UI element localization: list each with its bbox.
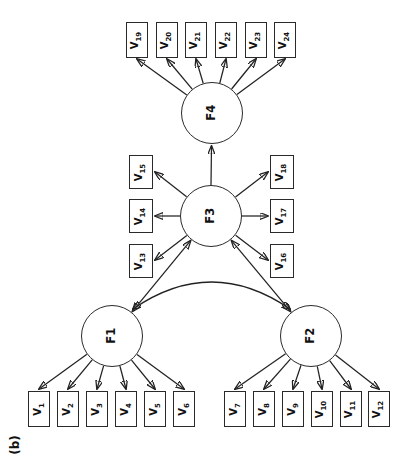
indicator-box-v20: V20 [156, 22, 178, 58]
loading-arrow-f2-v7 [235, 354, 286, 389]
indicator-label-v19: V19 [131, 31, 144, 49]
indicator-label-v4: V4 [120, 403, 133, 416]
indicator-label-v8: V8 [258, 403, 271, 416]
loading-arrow-f4-v19 [137, 59, 187, 95]
loading-arrow-f1-v1 [39, 354, 87, 389]
indicator-label-v16: V16 [276, 252, 289, 270]
indicator-box-v4: V4 [115, 391, 137, 427]
indicator-box-v21: V21 [185, 22, 207, 58]
indicator-box-v22: V22 [215, 22, 237, 58]
indicator-label-v9: V9 [287, 403, 300, 416]
indicator-label-v22: V22 [220, 31, 233, 49]
indicator-box-v2: V2 [57, 391, 79, 427]
loading-arrow-f3-v18 [236, 172, 269, 197]
loading-arrow-f3-v16 [236, 235, 268, 260]
indicator-label-v1: V1 [33, 403, 46, 416]
indicator-box-v8: V8 [253, 391, 275, 427]
indicator-label-v3: V3 [91, 403, 104, 416]
loading-arrow-f2-v12 [336, 355, 380, 389]
indicator-label-v21: V21 [190, 31, 203, 49]
indicator-label-v15: V15 [135, 163, 148, 181]
indicator-box-v15: V15 [129, 155, 153, 189]
indicator-label-v10: V10 [316, 400, 329, 418]
loading-arrow-f3-v15 [155, 172, 187, 197]
indicator-box-v12: V12 [368, 391, 390, 427]
sem-diagram-canvas: V19 V20 V21 V22 V23 V24 V15 V14 V13 V18 … [0, 0, 410, 458]
factor-label-f2: F2 [305, 328, 317, 344]
factor-label-f3: F3 [205, 208, 217, 224]
indicator-box-v17: V17 [270, 199, 294, 233]
loading-arrow-f4-v21 [196, 59, 203, 83]
indicator-label-v18: V18 [276, 163, 289, 181]
loading-arrow-f1-v2 [68, 360, 92, 389]
loading-arrow-f2-v9 [293, 365, 301, 389]
loading-arrow-f4-v20 [167, 59, 192, 89]
indicator-box-v18: V18 [270, 155, 294, 189]
indicator-label-v6: V6 [178, 403, 191, 416]
indicator-label-v11: V11 [345, 400, 358, 418]
factor-circle-f2: F2 [280, 305, 342, 367]
indicator-label-v24: V24 [279, 31, 292, 49]
factor-circle-f1: F1 [81, 305, 143, 367]
loading-arrow-f1-v3 [97, 366, 104, 389]
indicator-box-v6: V6 [173, 391, 195, 427]
indicator-box-v23: V23 [245, 22, 267, 58]
loading-arrow-f2-v10 [317, 366, 322, 389]
indicator-box-v5: V5 [144, 391, 166, 427]
indicator-label-v20: V20 [161, 31, 174, 49]
regression-arrow-f3-f4 [211, 146, 212, 185]
indicator-box-v3: V3 [86, 391, 108, 427]
indicator-label-v5: V5 [149, 403, 162, 416]
indicator-box-v24: V24 [274, 22, 296, 58]
covariance-arrow-f1-f2 [133, 282, 290, 309]
indicator-box-v9: V9 [282, 391, 304, 427]
indicator-box-v19: V19 [126, 22, 148, 58]
loading-arrow-f4-v22 [220, 59, 226, 83]
factor-circle-f3: F3 [180, 185, 242, 247]
indicator-label-v13: V13 [135, 252, 148, 270]
loading-arrow-f1-v4 [120, 366, 126, 389]
indicator-label-v23: V23 [250, 31, 263, 49]
loading-arrow-f3-v13 [155, 235, 187, 260]
loading-arrow-f2-v11 [330, 361, 351, 389]
indicator-label-v14: V14 [135, 207, 148, 225]
loading-arrow-f4-v24 [237, 59, 285, 95]
indicator-box-v1: V1 [28, 391, 50, 427]
indicator-label-v12: V12 [373, 400, 386, 418]
indicator-label-v2: V2 [62, 403, 75, 416]
indicator-label-v17: V17 [276, 207, 289, 225]
figure-label: (b) [6, 434, 24, 456]
indicator-box-v13: V13 [129, 244, 153, 278]
loading-arrow-f4-v23 [232, 59, 256, 89]
loading-arrow-f1-v5 [132, 360, 156, 389]
indicator-box-v14: V14 [129, 199, 153, 233]
factor-circle-f4: F4 [181, 82, 243, 144]
indicator-box-v10: V10 [311, 391, 333, 427]
loading-arrow-f1-v6 [137, 354, 184, 389]
factor-label-f4: F4 [206, 105, 218, 121]
loading-arrow-f2-v8 [264, 359, 290, 389]
indicator-box-v16: V16 [270, 244, 294, 278]
indicator-box-v11: V11 [340, 391, 362, 427]
factor-label-f1: F1 [106, 328, 118, 344]
indicator-box-v7: V7 [224, 391, 246, 427]
indicator-label-v7: V7 [229, 403, 242, 416]
